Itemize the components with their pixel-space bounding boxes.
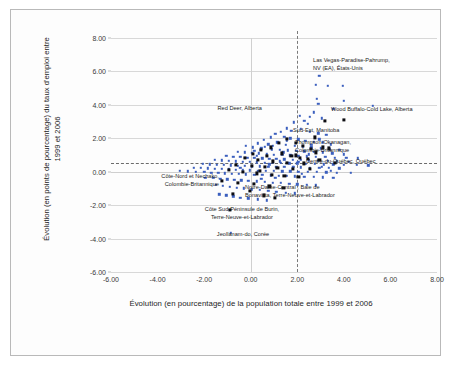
data-point-canada	[241, 170, 244, 173]
data-point-other	[277, 175, 279, 177]
data-point-other	[307, 171, 309, 173]
data-point-other	[202, 162, 204, 164]
data-point-other	[237, 150, 239, 152]
data-point-canada	[285, 138, 288, 141]
data-point-other	[260, 178, 262, 180]
data-point-other	[253, 157, 255, 159]
y-tick-label: 2.00	[92, 135, 106, 142]
data-point-canada	[227, 168, 230, 171]
annotation-jeollanam-do: Jeollanam-do, Corée	[173, 231, 313, 239]
data-point-canada	[243, 156, 246, 159]
data-point-other	[226, 178, 228, 180]
annotation-cote-sud-burin: Côte Sud-Péninsule de Burin, Terre-Neuve…	[172, 206, 312, 221]
data-point-other	[244, 151, 246, 153]
data-point-other	[225, 155, 227, 157]
data-point-other	[234, 169, 236, 171]
data-point-other	[297, 170, 299, 172]
y-tick-mark	[108, 138, 111, 139]
data-point-other	[232, 155, 234, 157]
data-point-other	[300, 166, 302, 168]
data-point-other	[252, 146, 254, 148]
data-point-other	[266, 199, 268, 201]
y-tick-label: -6.00	[90, 269, 106, 276]
data-point-other	[293, 121, 295, 123]
data-point-other	[262, 139, 264, 141]
x-tick-label: 0.00	[244, 276, 258, 283]
data-point-other	[312, 176, 314, 178]
y-tick-label: -2.00	[90, 202, 106, 209]
data-point-canada	[308, 168, 311, 171]
annotation-wood-buffalo: Wood Buffalo-Cold Lake, Alberta	[331, 106, 413, 114]
x-axis-title: Évolution (en pourcentage) de la populat…	[71, 299, 431, 308]
annotation-notre-dame-central: Notre-Dame-Central ; Baie de Bonavista, …	[245, 184, 335, 199]
data-point-other	[268, 163, 270, 165]
data-point-other	[279, 160, 281, 162]
data-point-canada	[324, 119, 327, 122]
data-point-other	[213, 159, 215, 161]
data-point-other	[300, 159, 302, 161]
data-point-canada	[236, 181, 239, 184]
data-point-canada	[271, 160, 274, 163]
data-point-other	[255, 155, 257, 157]
data-point-other	[316, 171, 318, 173]
data-point-other	[229, 186, 231, 188]
x-tick-label: -4.00	[150, 276, 166, 283]
data-point-other	[312, 111, 314, 113]
data-point-other	[261, 157, 263, 159]
data-point-canada	[220, 179, 223, 182]
data-point-other	[192, 166, 194, 168]
data-point-canada	[298, 156, 301, 159]
data-point-other	[298, 115, 300, 117]
data-point-other	[245, 145, 247, 147]
data-point-other	[321, 165, 323, 167]
annotation-sud-est-manitoba: Sud-Est, Manitoba	[293, 127, 339, 135]
data-point-canada	[342, 118, 345, 121]
data-point-other	[294, 175, 296, 177]
scanned-page: Évolution (en points de pourcentage) du …	[0, 0, 452, 373]
data-point-other	[258, 152, 260, 154]
gridline-horizontal	[111, 38, 437, 39]
data-point-other	[341, 84, 343, 86]
annotation-centre-du-quebec: Centre-du-Québec, Québec	[306, 158, 376, 166]
data-point-other	[275, 158, 277, 160]
data-point-other	[233, 179, 235, 181]
gridline-horizontal	[111, 272, 437, 273]
data-point-other	[263, 181, 265, 183]
data-point-other	[241, 160, 243, 162]
annotation-red-deer: Red Deer, Alberta	[11, 105, 262, 113]
data-point-canada	[263, 165, 266, 168]
data-point-other	[209, 163, 211, 165]
y-tick-mark	[108, 71, 111, 72]
data-point-other	[265, 170, 267, 172]
data-point-canada	[256, 158, 259, 161]
data-point-other	[318, 74, 320, 76]
data-point-other	[240, 179, 242, 181]
data-point-other	[223, 164, 225, 166]
y-tick-label: 6.00	[92, 68, 106, 75]
data-point-other	[247, 180, 249, 182]
data-point-other	[245, 173, 247, 175]
data-point-other	[218, 193, 220, 195]
y-tick-label: 8.00	[92, 35, 106, 42]
data-point-other	[225, 194, 227, 196]
data-point-canada	[269, 146, 272, 149]
data-point-other	[227, 160, 229, 162]
data-point-other	[343, 99, 345, 101]
x-tick-label: 6.00	[384, 276, 398, 283]
y-tick-mark	[108, 38, 111, 39]
data-point-other	[236, 186, 238, 188]
data-point-other	[273, 153, 275, 155]
data-point-other	[263, 146, 265, 148]
data-point-other	[199, 167, 201, 169]
data-point-other	[315, 84, 317, 86]
data-point-canada	[295, 154, 298, 157]
data-point-other	[283, 166, 285, 168]
data-point-other	[301, 173, 303, 175]
data-point-canada	[283, 174, 286, 177]
y-axis-title: Évolution (en points de pourcentage) du …	[41, 32, 63, 246]
y-tick-mark	[108, 238, 111, 239]
y-tick-mark	[108, 272, 111, 273]
data-point-other	[325, 171, 327, 173]
data-point-other	[291, 158, 293, 160]
data-point-other	[281, 170, 283, 172]
